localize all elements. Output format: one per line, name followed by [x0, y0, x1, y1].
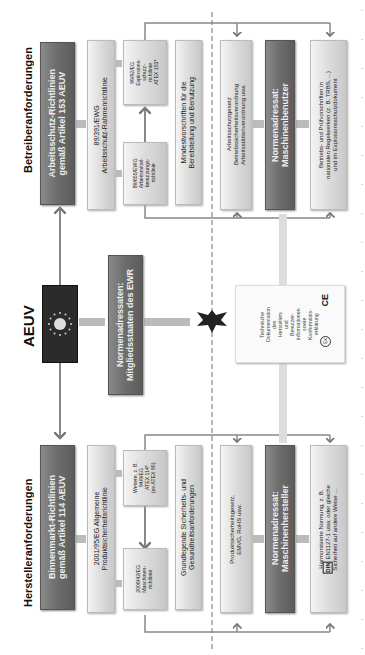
machinery-directive-box: 2006/42/EG Maschinen- richtlinie	[123, 548, 167, 610]
operator-law-box: Arbeitsschutzgesetz Betriebssicherheitsv…	[220, 40, 252, 210]
aeuv-title: AEUV	[20, 300, 38, 352]
product-safety-directive-box: 2001/95/EG Allgemeine Produktsicherheits…	[87, 445, 115, 613]
framework-directive-box: 89/391/EWG Arbeitsschutz-Rahmenrichtlini…	[87, 40, 115, 210]
essential-requirements-box: Grundlegende Sicherheits- und Gesundheit…	[175, 445, 202, 610]
eu-flag-icon	[42, 285, 78, 363]
arrow-manufacturer-to-techdoc	[279, 363, 287, 443]
german-eagle-icon	[193, 305, 231, 337]
min-requirements-box: Mindestvorschriften für die Bereitstellu…	[175, 40, 202, 205]
operator-directive-box: Arbeitsschutz-Richtlinien gemäß Artikel …	[40, 42, 75, 205]
arrow-techdoc-to-user	[279, 214, 287, 285]
atex-153-box: 99/92/EG Explosions- schutz- richtlinie …	[123, 40, 167, 105]
operator-title: Betreiberanforderungen	[20, 20, 36, 200]
other-directives-box: Weitere, z. B. 94/9/EG ATEX 114* (ex ATE…	[123, 450, 167, 506]
arrow-flag-to-states	[79, 318, 105, 326]
manufacturer-directive-box: Binnenmarkt-Richtlinien gemäß Artikel 11…	[40, 445, 75, 610]
member-states-box: Normenadressaten: Mitgliedsstaaten des E…	[108, 255, 143, 395]
ce-mark: CE	[320, 294, 330, 307]
arrow-states-to-eagle	[144, 318, 190, 326]
manufacturer-law-box: Produktsicherheitsgesetz, EMVG, RoHS usw…	[220, 445, 252, 613]
ex-mark: Ex	[320, 336, 331, 347]
operating-rules-box: Betriebs- und Prüfvorschriften in nation…	[310, 40, 347, 210]
tech-doc-box: Technische Dokumentation des Herstellers…	[235, 285, 345, 363]
work-equipment-box: 89/655/EWG Arbeitsmittel- benutzungs- ri…	[123, 142, 167, 205]
machine-manufacturer-box: Normenadressat: Maschinenhersteller	[265, 445, 295, 613]
manufacturer-title: Herstelleranforderungen	[20, 448, 36, 638]
harmonized-standards-box: Harmonisierte Normung, z. B. DIN EN1127-…	[310, 445, 347, 613]
machine-user-box: Normenadressat: Maschinenbenutzer	[265, 40, 295, 210]
